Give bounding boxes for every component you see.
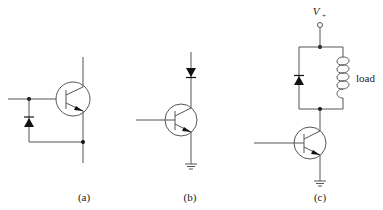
collector-lead-a <box>66 87 83 95</box>
inductor-load-icon <box>337 57 349 98</box>
diode-a <box>24 118 34 127</box>
panel-label-b: (b) <box>184 191 197 204</box>
circuit-diagrams: (a) (b) V + <box>0 0 383 210</box>
panel-a: (a) <box>8 57 90 204</box>
diode-b <box>186 68 196 77</box>
panel-label-c: (c) <box>314 191 327 204</box>
panel-label-a: (a) <box>78 191 91 204</box>
panel-b: (b) <box>136 52 197 204</box>
junction-dot-emitter-a <box>81 140 85 144</box>
supply-terminal <box>318 23 323 28</box>
supply-subscript: + <box>322 12 326 20</box>
panel-c: V + load (c) <box>254 5 375 204</box>
flyback-diode-c <box>294 76 304 85</box>
load-label: load <box>356 72 375 84</box>
ground-icon-c <box>314 181 326 186</box>
collector-lead-c <box>304 131 320 139</box>
collector-lead-b <box>175 108 191 116</box>
ground-icon-b <box>185 164 197 169</box>
supply-label: V <box>313 5 321 17</box>
emitter-arrow-a <box>74 106 83 111</box>
transistor-a <box>56 82 90 116</box>
